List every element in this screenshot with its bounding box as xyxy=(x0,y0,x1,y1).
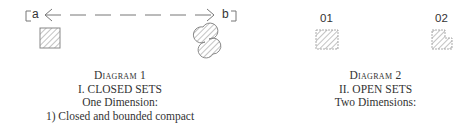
closed-blob-shape xyxy=(193,23,220,58)
diagram1-caption: Diagram 1 I. CLOSED SETS One Dimension: … xyxy=(0,69,240,123)
diagram1-section: I. CLOSED SETS xyxy=(0,83,240,97)
diagram1-item: 1) Closed and bounded compact xyxy=(0,110,240,124)
diagram2-section: II. OPEN SETS xyxy=(280,83,471,97)
right-bracket-icon xyxy=(231,11,236,21)
shape-02-label: 02 xyxy=(435,12,448,24)
open-square-shape-01 xyxy=(316,30,338,49)
endpoint-b-label: b xyxy=(222,7,229,21)
diagram1-subtitle: One Dimension: xyxy=(0,96,240,110)
endpoint-a-label: a xyxy=(32,7,39,21)
closed-square-shape xyxy=(40,28,60,48)
diagram2-subtitle: Two Dimensions: xyxy=(280,96,471,110)
shape-01-label: 01 xyxy=(320,12,333,24)
left-bracket-icon xyxy=(26,11,31,21)
double-arrow-icon xyxy=(45,9,214,21)
diagram2-title: Diagram 2 xyxy=(280,69,471,83)
diagram1-title: Diagram 1 xyxy=(0,69,240,83)
open-stepped-shape-02 xyxy=(432,30,452,49)
diagram2-caption: Diagram 2 II. OPEN SETS Two Dimensions: xyxy=(280,69,471,110)
